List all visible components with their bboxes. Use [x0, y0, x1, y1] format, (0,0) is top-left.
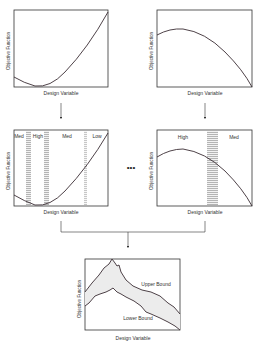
panel-top-right: Objective Function Design Variable [149, 10, 252, 96]
plot-frame [157, 10, 252, 87]
x-axis-label: Design Variable [116, 335, 151, 341]
upper-bound-label: Upper Bound [141, 281, 171, 287]
ellipsis: ••• [127, 163, 136, 172]
panel-mid-right: High Med Objective Function Design Varia… [149, 130, 252, 215]
x-axis-label: Design Variable [44, 209, 79, 215]
region-label: High [33, 133, 44, 139]
y-axis-label: Objective Function [149, 152, 154, 190]
region-divider-band [207, 131, 218, 205]
region-label: Med [62, 133, 72, 139]
lower-bound-label: Lower Bound [123, 315, 153, 321]
y-axis-label: Objective Function [77, 280, 82, 318]
plot-frame [157, 130, 252, 206]
panel-mid-left: Med High Med Low Objective Function Desi… [6, 130, 108, 215]
x-axis-label: Design Variable [188, 209, 223, 215]
merge-connector [61, 221, 205, 247]
diagram-canvas: Objective Function Design Variable Objec… [0, 0, 258, 351]
y-axis-label: Objective Function [6, 152, 11, 190]
y-axis-label: Objective Function [6, 32, 11, 70]
panel-top-left: Objective Function Design Variable [6, 10, 108, 96]
region-label: High [178, 134, 189, 140]
region-label: Low [92, 133, 102, 139]
x-axis-label: Design Variable [188, 90, 223, 96]
region-label: Med [14, 133, 24, 139]
y-axis-label: Objective Function [149, 32, 154, 70]
x-axis-label: Design Variable [44, 90, 79, 96]
panel-bottom: Upper Bound Lower Bound Objective Functi… [77, 259, 180, 341]
region-label: Med [229, 134, 239, 140]
